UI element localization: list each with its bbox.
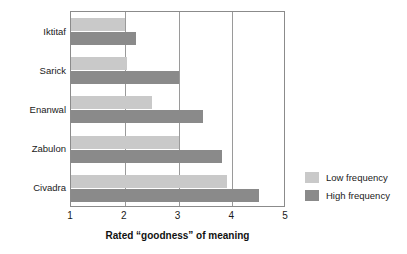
bar-low-frequency bbox=[71, 18, 125, 31]
legend-item: High frequency bbox=[305, 186, 390, 204]
bar-low-frequency bbox=[71, 57, 127, 70]
legend-item: Low frequency bbox=[305, 168, 390, 186]
category-label: Zabulon bbox=[0, 144, 66, 154]
bar-group: Zabulon bbox=[71, 130, 286, 169]
bar-high-frequency bbox=[71, 110, 203, 123]
bar-group: Enanwal bbox=[71, 90, 286, 129]
chart-legend: Low frequencyHigh frequency bbox=[305, 168, 390, 204]
legend-swatch-low-frequency bbox=[305, 172, 319, 183]
bar-low-frequency bbox=[71, 136, 179, 149]
plot-area: IktitafSarickEnanwalZabulonCivadra bbox=[70, 11, 285, 207]
x-tick-label: 4 bbox=[221, 210, 241, 222]
legend-swatch-high-frequency bbox=[305, 190, 319, 201]
bar-group: Civadra bbox=[71, 169, 286, 208]
bar-high-frequency bbox=[71, 71, 179, 84]
category-label: Iktitaf bbox=[0, 27, 66, 37]
bar-low-frequency bbox=[71, 96, 152, 109]
category-label: Sarick bbox=[0, 66, 66, 76]
bar-chart-figure: IktitafSarickEnanwalZabulonCivadra 12345… bbox=[0, 0, 407, 254]
bar-group: Iktitaf bbox=[71, 12, 286, 51]
bar-high-frequency bbox=[71, 189, 259, 202]
bar-high-frequency bbox=[71, 32, 136, 45]
category-label: Civadra bbox=[0, 183, 66, 193]
legend-label: High frequency bbox=[326, 190, 390, 201]
x-axis-title: Rated “goodness” of meaning bbox=[70, 230, 285, 242]
bar-low-frequency bbox=[71, 175, 227, 188]
x-tick-label: 1 bbox=[60, 210, 80, 222]
x-tick-label: 2 bbox=[114, 210, 134, 222]
plot-inner: IktitafSarickEnanwalZabulonCivadra bbox=[71, 12, 284, 206]
x-tick-label: 5 bbox=[275, 210, 295, 222]
x-tick-label: 3 bbox=[168, 210, 188, 222]
legend-label: Low frequency bbox=[326, 172, 388, 183]
bar-group: Sarick bbox=[71, 51, 286, 90]
bar-high-frequency bbox=[71, 150, 222, 163]
category-label: Enanwal bbox=[0, 105, 66, 115]
